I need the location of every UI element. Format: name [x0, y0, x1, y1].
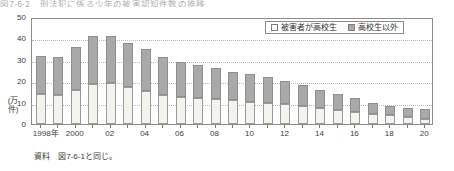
bar-segment-non-highschool: [123, 43, 133, 87]
bar-segment-non-highschool: [298, 85, 308, 105]
x-tick-label: 14: [315, 129, 324, 138]
x-tick: [75, 125, 76, 128]
x-tick: [407, 125, 408, 128]
bar-series-container: [32, 19, 432, 124]
x-tick-label: 18: [385, 129, 394, 138]
x-tick: [40, 125, 41, 128]
bar-segment-non-highschool: [211, 68, 221, 99]
bar-segment-highschool-victim: [315, 108, 325, 124]
bar-segment-highschool-victim: [385, 115, 395, 124]
bar-segment-non-highschool: [141, 49, 151, 91]
bar-segment-non-highschool: [368, 103, 378, 115]
bar-segment-non-highschool: [385, 106, 395, 116]
legend-swatch-icon: [348, 24, 355, 31]
legend-label: 高校生以外: [358, 24, 398, 32]
bar-segment-non-highschool: [228, 72, 238, 101]
bar-segment-highschool-victim: [53, 95, 63, 124]
bar-segment-highschool-victim: [36, 94, 46, 124]
chart-plot-area: [31, 18, 433, 125]
bar-segment-highschool-victim: [333, 110, 343, 124]
bar-segment-highschool-victim: [298, 106, 308, 124]
bar-segment-non-highschool: [88, 36, 98, 84]
bar-segment-highschool-victim: [123, 87, 133, 124]
legend-swatch-icon: [271, 24, 278, 31]
x-tick-label: 02: [105, 129, 114, 138]
source-note: 資料 図7-6-1と同じ。: [34, 152, 117, 162]
bar-segment-non-highschool: [350, 98, 360, 112]
y-tick-label: 0: [22, 121, 26, 129]
x-tick-label: 16: [350, 129, 359, 138]
x-tick: [180, 125, 181, 128]
x-tick: [267, 125, 268, 128]
x-tick-label: 06: [175, 129, 184, 138]
bar-segment-non-highschool: [280, 81, 290, 103]
x-tick: [145, 125, 146, 128]
bar-segment-highschool-victim: [350, 112, 360, 124]
chart-legend: 被害者が高校生高校生以外: [265, 21, 404, 34]
bar-segment-highschool-victim: [280, 104, 290, 124]
x-tick: [110, 125, 111, 128]
bar-segment-non-highschool: [333, 94, 343, 110]
x-tick: [92, 125, 93, 128]
bar-segment-non-highschool: [263, 77, 273, 103]
x-tick: [232, 125, 233, 128]
bar-segment-highschool-victim: [71, 90, 81, 124]
y-axis-unit-label: (万件): [7, 96, 19, 114]
x-tick: [197, 125, 198, 128]
bar-segment-highschool-victim: [211, 99, 221, 124]
source-text: 図7-6-1と同じ。: [58, 152, 117, 161]
x-tick: [284, 125, 285, 128]
x-tick: [319, 125, 320, 128]
y-tick-label: 20: [17, 78, 26, 86]
x-tick: [162, 125, 163, 128]
bar-segment-highschool-victim: [158, 95, 168, 124]
figure-title-text: 刑法犯に係る少年の被害認知件数の推移: [40, 0, 206, 7]
legend-entry: 被害者が高校生: [271, 24, 337, 32]
bar-segment-non-highschool: [36, 56, 46, 95]
bar-segment-non-highschool: [315, 90, 325, 108]
x-tick: [354, 125, 355, 128]
bar-segment-highschool-victim: [403, 117, 413, 124]
x-tick: [302, 125, 303, 128]
bar-segment-highschool-victim: [228, 100, 238, 124]
x-tick: [372, 125, 373, 128]
bar-segment-non-highschool: [158, 57, 168, 96]
bar-segment-highschool-victim: [141, 91, 151, 124]
x-tick: [389, 125, 390, 128]
x-tick-label: 10: [245, 129, 254, 138]
bar-segment-highschool-victim: [193, 98, 203, 124]
x-tick-label: 20: [420, 129, 429, 138]
y-tick-label: 40: [17, 35, 26, 43]
x-tick: [249, 125, 250, 128]
x-tick-label: 04: [140, 129, 149, 138]
bar-segment-non-highschool: [193, 65, 203, 98]
source-label: 資料: [34, 152, 50, 161]
figure-number: 図7-6-2: [0, 0, 30, 7]
bar-segment-highschool-victim: [420, 119, 430, 124]
bar-segment-highschool-victim: [368, 114, 378, 124]
bar-segment-non-highschool: [403, 108, 413, 117]
x-tick: [337, 125, 338, 128]
bar-segment-non-highschool: [53, 57, 63, 96]
x-tick-label: 08: [210, 129, 219, 138]
x-tick-label: 1998年: [33, 129, 59, 138]
bar-segment-highschool-victim: [88, 84, 98, 124]
figure-title: 図7-6-2 刑法犯に係る少年の被害認知件数の推移: [0, 0, 454, 7]
legend-entry: 高校生以外: [348, 24, 398, 32]
x-tick-label: 2000: [66, 129, 84, 138]
bar-segment-non-highschool: [420, 109, 430, 119]
x-axis: 1998年200002040608101214161820: [31, 125, 433, 145]
x-tick: [424, 125, 425, 128]
bar-segment-non-highschool: [245, 74, 255, 102]
x-tick: [57, 125, 58, 128]
bar-segment-highschool-victim: [106, 83, 116, 124]
bar-segment-highschool-victim: [263, 103, 273, 124]
bar-segment-non-highschool: [176, 62, 186, 97]
bar-segment-highschool-victim: [176, 97, 186, 124]
x-tick: [127, 125, 128, 128]
x-tick: [215, 125, 216, 128]
x-tick-label: 12: [280, 129, 289, 138]
legend-label: 被害者が高校生: [281, 24, 337, 32]
y-tick-label: 30: [17, 57, 26, 65]
bar-segment-highschool-victim: [245, 102, 255, 124]
